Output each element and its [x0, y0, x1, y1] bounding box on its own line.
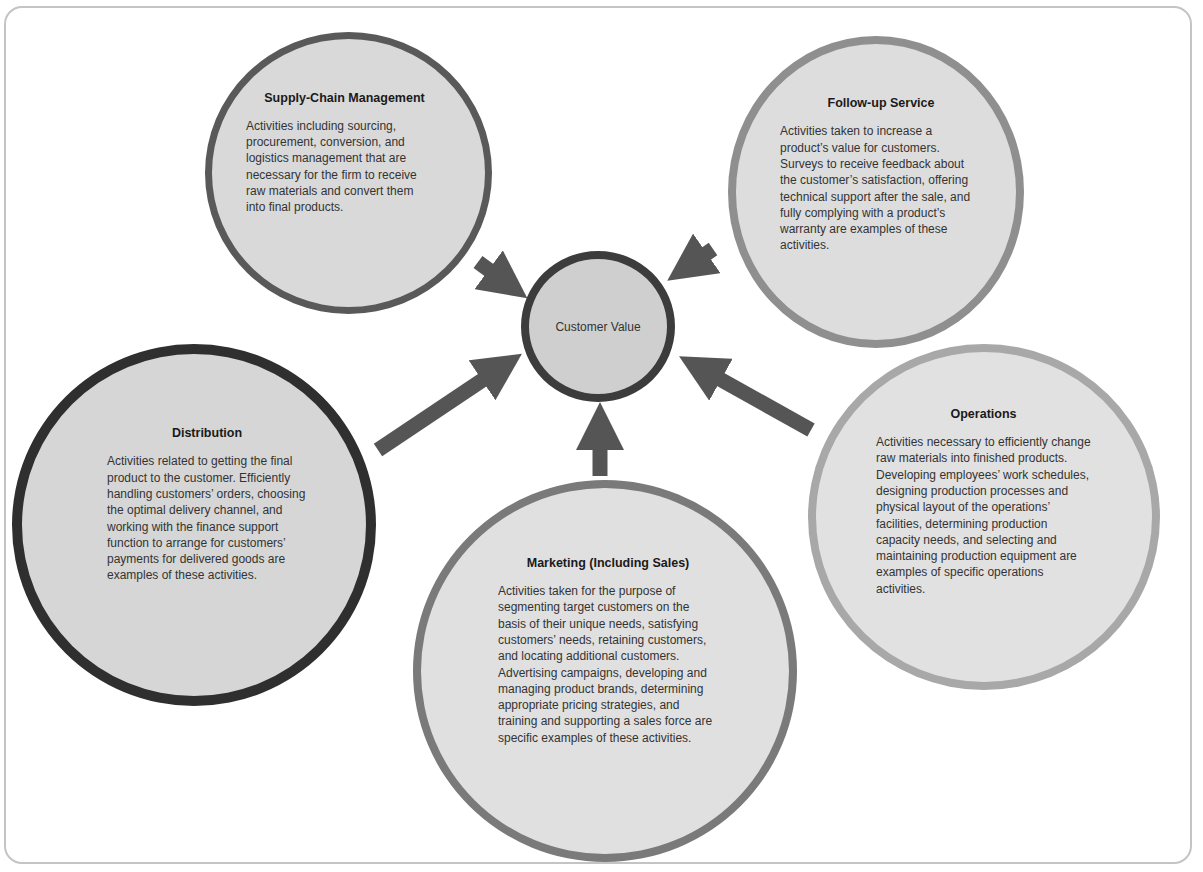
- node-distribution: Distribution Activities related to getti…: [12, 344, 376, 706]
- arrow-icon-distribution: [378, 367, 502, 450]
- arrow-icon-follow: [687, 249, 713, 267]
- node-description: Activities related to getting the final …: [107, 453, 307, 583]
- node-title: Follow-up Service: [780, 96, 982, 110]
- node-follow-up-service: Follow-up Service Activities taken to in…: [728, 36, 1024, 348]
- node-title: Supply-Chain Management: [246, 91, 443, 105]
- node-title: Marketing (Including Sales): [498, 556, 718, 570]
- center-label: Customer Value: [555, 320, 640, 334]
- node-operations: Operations Activities necessary to effic…: [808, 344, 1160, 690]
- node-marketing: Marketing (Including Sales) Activities t…: [413, 480, 797, 862]
- node-title: Distribution: [107, 426, 307, 440]
- arrow-icon-supply: [478, 262, 508, 284]
- node-supply-chain-management: Supply-Chain Management Activities inclu…: [205, 32, 492, 314]
- node-title: Operations: [876, 407, 1091, 421]
- node-customer-value: Customer Value: [521, 251, 675, 402]
- arrow-icon-operations: [700, 368, 811, 430]
- node-description: Activities including sourcing, procureme…: [246, 118, 431, 216]
- node-description: Activities taken to increase a product’s…: [780, 123, 980, 253]
- node-description: Activities taken for the purpose of segm…: [498, 583, 718, 746]
- node-description: Activities necessary to efficiently chan…: [876, 434, 1091, 597]
